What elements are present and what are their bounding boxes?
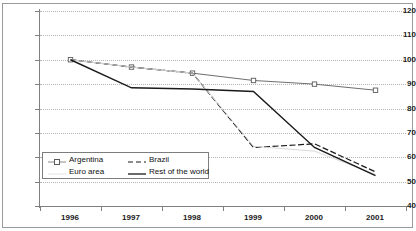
data-point-argentina-2000 xyxy=(312,82,316,86)
legend-swatch-euro-area-icon xyxy=(47,166,67,178)
legend-row-1: Argentina Brazil xyxy=(43,154,210,166)
data-point-argentina-2001 xyxy=(373,88,377,92)
chart-legend: Argentina Brazil Euro area xyxy=(42,152,209,179)
series-line-argentina xyxy=(71,60,376,90)
data-point-argentina-1999 xyxy=(251,78,255,82)
legend-swatch-brazil-icon xyxy=(127,154,147,166)
legend-label-argentina: Argentina xyxy=(69,154,103,166)
series-layer xyxy=(0,0,416,231)
legend-swatch-rest-of-the-world-icon xyxy=(127,166,147,178)
legend-label-euro-area: Euro area xyxy=(69,166,104,178)
legend-swatch-argentina-icon xyxy=(47,154,67,166)
legend-label-brazil: Brazil xyxy=(149,154,169,166)
legend-row-2: Euro area Rest of the world xyxy=(43,166,210,178)
line-chart: 120 110 100 90 80 70 60 50 40 1996 1997 … xyxy=(0,0,416,231)
legend-label-rest-of-the-world: Rest of the world xyxy=(149,166,209,178)
